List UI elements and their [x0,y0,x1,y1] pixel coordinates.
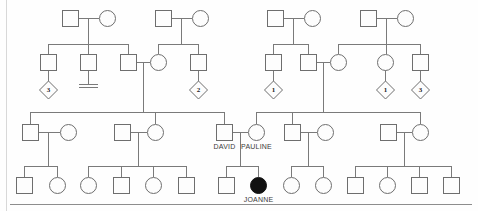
individual-male[interactable] [444,178,460,194]
individual-male[interactable] [41,55,57,71]
sibship-count-label: 1 [272,86,276,94]
individual-male[interactable] [179,178,195,194]
individual-female[interactable] [100,11,116,27]
individual-male[interactable] [412,178,428,194]
individual-female[interactable] [151,55,167,71]
sibship-count-label: 3 [47,86,51,94]
individual-female[interactable] [378,55,394,71]
individual-male[interactable] [63,11,79,27]
individual-male[interactable] [23,125,39,141]
individual-female[interactable] [193,11,209,27]
individual-name-label: JOANNE [244,196,274,203]
individual-male[interactable] [156,11,172,27]
individual-name-label: PAULINE [241,143,272,150]
individual-male[interactable] [191,55,207,71]
individual-female[interactable] [305,11,321,27]
individual-female[interactable] [284,178,300,194]
individual-female[interactable] [249,125,265,141]
individual-female[interactable] [148,125,164,141]
chart-background [0,0,478,211]
sibship-count-label: 3 [419,86,423,94]
individual-male[interactable] [268,11,284,27]
individual-female[interactable] [318,125,334,141]
individual-male[interactable] [219,178,235,194]
individual-male[interactable] [361,11,377,27]
sibship-count-label: 1 [384,86,388,94]
individual-male[interactable] [81,55,97,71]
individual-female[interactable] [398,11,414,27]
individual-female[interactable] [413,125,429,141]
individual-male[interactable] [348,178,364,194]
individual-male[interactable] [285,125,301,141]
individual-male[interactable] [115,125,131,141]
individual-female[interactable] [146,178,162,194]
individual-female[interactable] [380,178,396,194]
individual-male[interactable] [301,55,317,71]
individual-male[interactable] [266,55,282,71]
pedigree-chart: 32113 DAVIDPAULINEJOANNE [0,0,478,211]
individual-female[interactable] [50,178,66,194]
sibship-count-label: 2 [197,86,201,94]
individual-male[interactable] [413,55,429,71]
individual-female[interactable] [331,55,347,71]
individual-female[interactable] [316,178,332,194]
individual-male[interactable] [121,55,137,71]
individual-male[interactable] [114,178,130,194]
pedigree-diagram: 32113 DAVIDPAULINEJOANNE [0,0,478,211]
individual-male[interactable] [217,125,233,141]
individual-male[interactable] [381,125,397,141]
individual-female[interactable] [81,178,97,194]
individual-male[interactable] [17,178,33,194]
individual-affected-female[interactable] [251,178,267,194]
individual-name-label: DAVID [214,143,236,150]
individual-female[interactable] [61,125,77,141]
